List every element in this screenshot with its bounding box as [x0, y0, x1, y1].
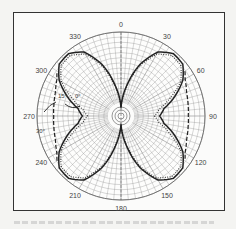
- angle-label-60: 60: [197, 67, 205, 74]
- annotation-0: 0°: [75, 93, 81, 99]
- angle-label-300: 300: [35, 67, 47, 74]
- angle-label-90: 90: [209, 113, 217, 120]
- angle-label-120: 120: [195, 159, 207, 166]
- polar-pattern-plot: 0306090120150180210240270300330 0°15°30°: [0, 0, 236, 229]
- polar-grid: [37, 32, 205, 200]
- angle-label-270: 270: [23, 113, 35, 120]
- angle-label-330: 330: [69, 33, 81, 40]
- caption-cutoff: [14, 219, 214, 229]
- angle-label-240: 240: [35, 159, 47, 166]
- angle-label-150: 150: [161, 192, 173, 199]
- annotation-1: 15°: [58, 93, 68, 99]
- angle-label-0: 0: [119, 21, 123, 28]
- angle-label-180: 180: [115, 205, 127, 212]
- annotation-2: 30°: [36, 128, 46, 134]
- angle-label-30: 30: [163, 33, 171, 40]
- angle-label-210: 210: [69, 192, 81, 199]
